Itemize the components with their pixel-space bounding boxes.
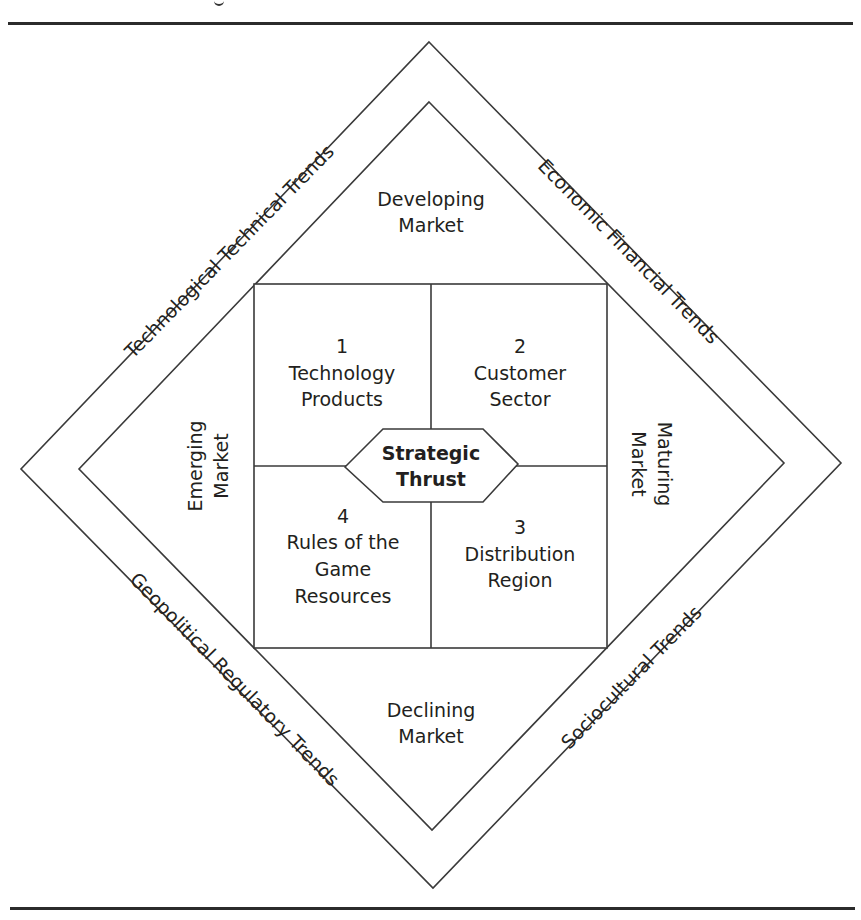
quadrant-1-line2: Products <box>301 388 383 410</box>
market-top-line1: Developing <box>377 188 485 210</box>
quadrant-3-line2: Region <box>487 569 552 591</box>
market-left-line2: Market <box>210 433 232 498</box>
quadrant-4-line2: Game <box>315 558 372 580</box>
strategic-thrust-diagram: Strategic Thrust 1 Technology Products 2… <box>0 0 861 920</box>
market-right-line1: Maturing <box>654 422 676 507</box>
market-maturing: Maturing Market <box>628 422 676 507</box>
market-declining: Declining Market <box>387 699 476 747</box>
center-label-line2: Thrust <box>396 468 466 490</box>
quadrant-1-line1: Technology <box>288 362 395 384</box>
bottom-rule-divider <box>10 907 855 910</box>
quadrant-3-number: 3 <box>514 516 526 538</box>
strategic-thrust-hexagon <box>345 429 518 502</box>
quadrant-1-number: 1 <box>336 335 348 357</box>
market-bottom-line1: Declining <box>387 699 476 721</box>
market-top-line2: Market <box>398 214 463 236</box>
market-emerging: Emerging Market <box>184 420 232 511</box>
market-right-line2: Market <box>628 431 650 496</box>
quadrant-4-line1: Rules of the <box>287 531 400 553</box>
quadrant-2-number: 2 <box>514 335 526 357</box>
quadrant-4-number: 4 <box>337 505 349 527</box>
quadrant-2-line2: Sector <box>489 388 550 410</box>
market-bottom-line2: Market <box>398 725 463 747</box>
quadrant-3-line1: Distribution <box>465 543 576 565</box>
center-label-line1: Strategic <box>382 442 480 464</box>
quadrant-4-line3: Resources <box>294 585 391 607</box>
market-developing: Developing Market <box>377 188 485 236</box>
quadrant-2-line1: Customer <box>474 362 566 384</box>
market-left-line1: Emerging <box>184 420 206 511</box>
